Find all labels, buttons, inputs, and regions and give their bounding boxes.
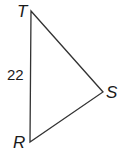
vertex-label-s: S bbox=[106, 84, 117, 101]
side-length-tr: 22 bbox=[7, 67, 24, 82]
vertex-label-r: R bbox=[13, 134, 25, 151]
vertex-label-t: T bbox=[17, 3, 27, 20]
triangle-figure: T 22 S R bbox=[0, 0, 125, 156]
triangle-TSR bbox=[30, 11, 103, 142]
